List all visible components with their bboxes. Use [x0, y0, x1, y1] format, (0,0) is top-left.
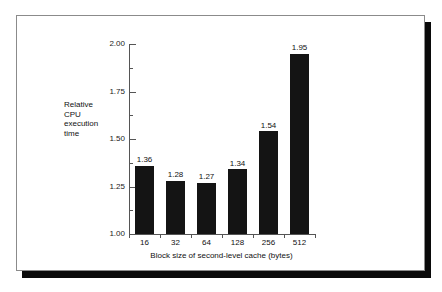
y-tick-major-1.75: 1.75 [129, 92, 136, 93]
y-tick-label-2.00: 2.00 [85, 40, 129, 48]
x-tick-5 [284, 234, 285, 238]
chart-plot-area: 2.00 1.75 1.50 1.25 1.00 1.36 1.28 [17, 16, 424, 270]
y-tick-minor-1.625 [129, 115, 133, 116]
bar-32[interactable] [166, 181, 185, 234]
bar-256[interactable] [259, 131, 278, 234]
y-tick-label-1.75: 1.75 [85, 88, 129, 96]
x-tick-1 [160, 234, 161, 238]
y-tick-minor-1.125 [129, 210, 133, 211]
y-tick-major-1.00: 1.00 [129, 234, 136, 235]
bar-16[interactable] [135, 166, 154, 234]
y-axis-title: Relative CPU execution time [64, 100, 98, 138]
bar-512[interactable] [290, 54, 309, 235]
x-tick-0 [129, 234, 130, 238]
x-axis-title: Block size of second-level cache (bytes) [17, 252, 426, 260]
bar-value-16: 1.36 [125, 156, 164, 164]
bar-value-64: 1.27 [187, 173, 226, 181]
y-tick-label-1.00: 1.00 [85, 230, 129, 238]
bar-value-128: 1.34 [218, 160, 257, 168]
y-tick-label-1.25: 1.25 [85, 183, 129, 191]
x-category-label-512: 512 [280, 239, 319, 247]
x-tick-4 [253, 234, 254, 238]
bar-value-512: 1.95 [280, 44, 319, 52]
x-tick-2 [191, 234, 192, 238]
y-tick-major-2.00: 2.00 [129, 44, 136, 45]
bar-128[interactable] [228, 169, 247, 234]
y-tick-major-1.50: 1.50 [129, 139, 136, 140]
x-tick-6 [315, 234, 316, 238]
bar-64[interactable] [197, 183, 216, 234]
y-tick-minor-1.875 [129, 68, 133, 69]
bar-value-256: 1.54 [249, 122, 288, 130]
x-tick-3 [222, 234, 223, 238]
figure-frame: 2.00 1.75 1.50 1.25 1.00 1.36 1.28 [16, 15, 425, 271]
